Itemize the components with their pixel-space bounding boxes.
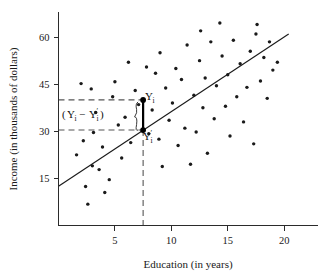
scatter-point	[176, 144, 179, 147]
scatter-point	[97, 168, 100, 171]
x-axis-tick-label: 10	[166, 235, 177, 246]
regression-scatter-chart: 15304560 5101520 Education (in years) In…	[0, 0, 326, 276]
scatter-point	[117, 123, 120, 126]
scatter-point	[220, 54, 223, 57]
scatter-point	[203, 76, 206, 79]
scatter-point	[82, 139, 85, 142]
scatter-point	[262, 56, 265, 59]
x-axis-title: Education (in years)	[143, 258, 233, 271]
scatter-point	[79, 82, 82, 85]
scatter-point	[75, 153, 78, 156]
scatter-point	[103, 191, 106, 194]
scatter-point	[164, 86, 167, 89]
scatter-point	[154, 72, 157, 75]
scatter-point	[180, 78, 183, 81]
scatter-point	[245, 86, 248, 89]
scatter-point	[194, 130, 197, 133]
x-axis-tick-label: 15	[222, 235, 233, 246]
y-axis-tick-label: 30	[39, 126, 50, 137]
scatter-point	[145, 65, 148, 68]
y-axis-title: Income (in thousands of dollars)	[7, 47, 20, 190]
scatter-point	[242, 120, 245, 123]
scatter-plot-figure: 15304560 5101520 Education (in years) In…	[0, 0, 326, 276]
scatter-point	[174, 67, 177, 70]
scatter-point	[235, 95, 238, 98]
scatter-point	[86, 202, 89, 205]
predicted-point-label-subscript: i	[151, 136, 153, 145]
scatter-point	[252, 142, 255, 145]
scatter-point	[276, 61, 279, 64]
scatter-point	[189, 163, 192, 166]
scatter-point	[268, 40, 271, 43]
scatter-point	[90, 87, 93, 90]
scatter-point	[224, 104, 227, 107]
scatter-point	[215, 84, 218, 87]
residual-expr-close-paren: )	[100, 108, 104, 121]
scatter-point	[171, 101, 174, 104]
scatter-point	[206, 152, 209, 155]
scatter-point	[101, 145, 104, 148]
scatter-point	[249, 50, 252, 53]
scatter-point	[228, 134, 231, 137]
observed-point-label-subscript: i	[153, 96, 155, 105]
scatter-point	[167, 119, 170, 122]
scatter-point	[232, 39, 235, 42]
scatter-point	[127, 61, 130, 64]
y-axis-tick-label: 15	[39, 173, 50, 184]
scatter-point	[213, 117, 216, 120]
scatter-point	[150, 108, 153, 111]
scatter-point	[259, 79, 262, 82]
x-axis-tick-label: 20	[279, 235, 290, 246]
scatter-point	[129, 141, 132, 144]
scatter-point	[183, 126, 186, 129]
scatter-point	[199, 29, 202, 32]
scatter-point	[254, 32, 257, 35]
scatter-point	[137, 103, 140, 106]
x-axis-tick-label: 5	[112, 235, 117, 246]
y-axis-tick-label: 60	[39, 32, 50, 43]
scatter-point	[92, 131, 95, 134]
scatter-point	[108, 178, 111, 181]
scatter-point	[255, 23, 258, 26]
residual-expr-predicted-subscript: i	[97, 114, 99, 123]
scatter-point	[113, 80, 116, 83]
scatter-point	[161, 165, 164, 168]
scatter-point	[120, 156, 123, 159]
scatter-point	[111, 95, 114, 98]
residual-expr-open-paren: (	[62, 108, 66, 121]
scatter-point	[209, 40, 212, 43]
scatter-point	[123, 115, 126, 118]
y-axis-tick-label: 45	[39, 79, 50, 90]
scatter-point	[271, 68, 274, 71]
residual-expr-minus-sign: −	[79, 108, 85, 120]
scatter-point	[134, 89, 137, 92]
scatter-point	[198, 59, 201, 62]
scatter-point	[185, 43, 188, 46]
scatter-point	[158, 51, 161, 54]
scatter-point	[218, 21, 221, 24]
scatter-point	[266, 97, 269, 100]
residual-expr-observed-subscript: i	[75, 114, 77, 123]
scatter-point	[84, 185, 87, 188]
scatter-point	[157, 137, 160, 140]
scatter-point	[201, 106, 204, 109]
